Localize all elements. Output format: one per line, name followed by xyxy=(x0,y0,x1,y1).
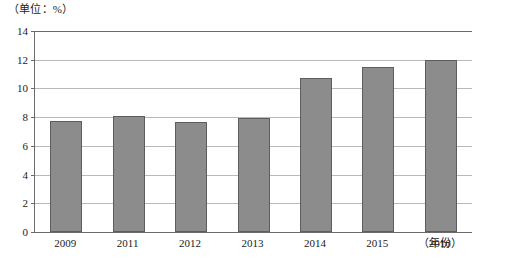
y-tick-label-10: 10 xyxy=(17,83,28,94)
bar-2011 xyxy=(113,116,145,232)
y-tick-mark-0 xyxy=(31,232,35,233)
y-tick-label-0: 0 xyxy=(23,227,29,238)
y-tick-label-12: 12 xyxy=(17,54,28,65)
x-tick-label-2015: 2015 xyxy=(366,236,388,250)
x-tick-label-2013: 2013 xyxy=(242,236,264,250)
y-tick-label-4: 4 xyxy=(23,169,29,180)
plot-area: 02468101214 xyxy=(34,31,472,233)
y-tick-label-14: 14 xyxy=(17,26,28,37)
bar-2009 xyxy=(50,121,82,232)
bar-2014 xyxy=(300,78,332,232)
y-tick-label-6: 6 xyxy=(23,140,29,151)
x-tick-label-2012: 2012 xyxy=(179,236,201,250)
bars xyxy=(35,31,472,232)
bar-2015 xyxy=(362,67,394,232)
x-axis-labels: 2009201120122013201420152016 xyxy=(34,236,472,256)
x-axis-title: （年份） xyxy=(418,236,462,250)
x-tick-label-2011: 2011 xyxy=(117,236,139,250)
bar-2012 xyxy=(175,122,207,232)
y-tick-label-8: 8 xyxy=(23,112,29,123)
x-tick-label-2014: 2014 xyxy=(304,236,326,250)
x-tick-label-2009: 2009 xyxy=(54,236,76,250)
bar-chart: （单位：%） 02468101214 200920112012201320142… xyxy=(0,0,506,266)
y-tick-label-2: 2 xyxy=(23,198,29,209)
bar-2016 xyxy=(425,60,457,232)
unit-caption: （单位：%） xyxy=(8,2,73,16)
bar-2013 xyxy=(238,118,270,232)
